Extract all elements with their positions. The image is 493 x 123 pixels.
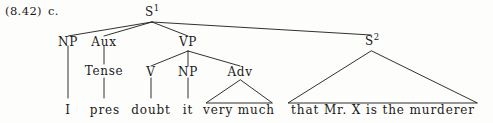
node-vp: VP <box>179 36 197 48</box>
node-np-object: NP <box>178 66 198 78</box>
terminal-that-clause: that Mr. X is the murderer <box>291 104 475 116</box>
branch-s1-s2 <box>152 22 371 35</box>
node-v: V <box>146 66 155 78</box>
node-s1: S1 <box>145 6 159 18</box>
terminal-very-much: very much <box>203 104 275 116</box>
terminal-it: it <box>183 104 193 116</box>
node-np-subject: NP <box>58 36 78 48</box>
example-letter: c. <box>48 6 59 18</box>
node-aux: Aux <box>91 36 116 48</box>
node-s1-superscript: 1 <box>154 3 159 13</box>
node-s2-label: S <box>365 34 374 48</box>
syntax-tree-figure: (8.42) c. S1 NP Aux VP S2 Tense V NP Adv… <box>0 0 493 123</box>
example-number: (8.42) <box>5 6 42 18</box>
node-adv: Adv <box>227 66 252 78</box>
terminal-doubt: doubt <box>131 104 171 116</box>
branch-vp-adv <box>188 51 240 66</box>
triangle-adv <box>206 80 272 103</box>
terminal-i: I <box>65 104 71 116</box>
node-tense: Tense <box>85 65 124 77</box>
node-s2: S2 <box>365 35 379 47</box>
node-s2-superscript: 2 <box>374 32 379 42</box>
triangle-s2 <box>288 51 477 103</box>
terminal-pres: pres <box>90 104 120 116</box>
node-s1-label: S <box>145 5 154 19</box>
branch-vp-v <box>151 51 188 66</box>
